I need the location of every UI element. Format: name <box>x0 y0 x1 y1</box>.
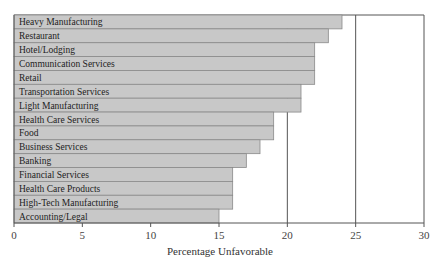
bar-label: Hotel/Lodging <box>19 45 75 55</box>
bar-label: Business Services <box>19 142 88 152</box>
bar <box>14 70 315 84</box>
bar-chart: Heavy ManufacturingRestaurantHotel/Lodgi… <box>0 0 443 266</box>
bar-label: Food <box>19 128 39 138</box>
bar-label: Health Care Services <box>19 115 99 125</box>
bar-label: Financial Services <box>19 170 89 180</box>
x-axis-title: Percentage Unfavorable <box>167 245 273 257</box>
x-tick-label: 0 <box>11 229 17 241</box>
bar <box>14 126 274 140</box>
x-tick-label: 10 <box>145 229 157 241</box>
bar-label: Banking <box>19 156 51 166</box>
x-tick-label: 5 <box>80 229 86 241</box>
bar-label: Communication Services <box>19 59 115 69</box>
bar-label: Retail <box>19 73 42 83</box>
bar-label: Transportation Services <box>19 87 109 97</box>
bar-label: Health Care Products <box>19 184 101 194</box>
bar-label: High-Tech Manufacturing <box>19 198 119 208</box>
bar-label: Accounting/Legal <box>19 212 88 222</box>
x-tick-label: 15 <box>214 229 226 241</box>
bars: Heavy ManufacturingRestaurantHotel/Lodgi… <box>14 15 342 223</box>
bar-label: Heavy Manufacturing <box>19 17 103 27</box>
bar-label: Light Manufacturing <box>19 101 99 111</box>
x-tick-label: 20 <box>282 229 294 241</box>
bar-label: Restaurant <box>19 31 60 41</box>
x-tick-label: 25 <box>350 229 362 241</box>
x-tick-label: 30 <box>419 229 431 241</box>
bar <box>14 29 328 43</box>
